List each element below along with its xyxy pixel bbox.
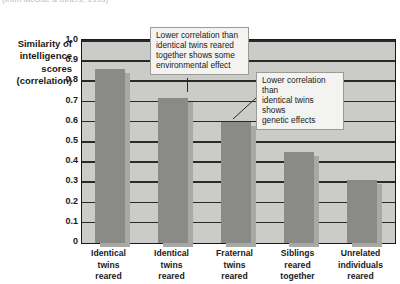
x-axis-label-4: Siblingsrearedtogether [263,248,333,283]
x-axis-label-line: individuals [326,260,396,272]
bar-1 [95,69,125,243]
environmental-leader-line [187,78,188,92]
source-credit: (from McGue & others, 1993) [2,0,108,4]
annotation-line: Lower correlation than [262,76,339,96]
x-axis-label-line: reared [74,271,144,283]
bar-4 [284,152,314,243]
x-axis-label-line: reared [200,271,270,283]
x-axis-label-3: Fraternaltwinsreared [200,248,270,283]
y-tick-label: 0 [58,236,78,246]
annotation-genetic-effects: Lower correlation than identical twins s… [256,72,344,130]
bar-body [284,152,314,243]
bar-body [221,122,251,243]
y-tick-label: 0.3 [58,175,78,185]
y-tick-label: 0.1 [58,216,78,226]
annotation-environmental-effect: Lower correlation than identical twins r… [150,27,249,75]
y-tick-label: 0.8 [58,74,78,84]
x-axis-labels: IdenticaltwinsrearedIdenticaltwinsreared… [81,248,396,284]
x-axis-label-line: Identical [137,248,207,260]
x-axis-label-line: Siblings [263,248,333,260]
y-tick-label: 0.7 [58,95,78,105]
x-axis-label-2: Identicaltwinsreared [137,248,207,283]
annotation-line: genetic effects [262,116,339,126]
annotation-line: identical twins shows [262,96,339,116]
x-axis-label-line: reared [137,271,207,283]
x-axis-label-5: Unrelatedindividualsreared [326,248,396,283]
bar-3 [221,122,251,243]
x-axis-label-line: Fraternal [200,248,270,260]
x-axis-label-line: reared [326,271,396,283]
y-tick-label: 0.4 [58,155,78,165]
y-tick-label: 0.9 [58,54,78,64]
bar-5 [347,180,377,243]
bar-2 [158,98,188,243]
bar-body [347,180,377,243]
y-tick-label: 0.2 [58,196,78,206]
y-tick-label: 0.5 [58,135,78,145]
bar-body [95,69,125,243]
x-axis-label-line: Identical [74,248,144,260]
y-axis-tick-labels: 1.00.90.80.70.60.50.40.30.20.10 [58,34,78,246]
y-tick-label: 0.6 [58,115,78,125]
x-axis-label-line: twins [137,260,207,272]
x-axis-label-line: twins [74,260,144,272]
annotation-line: environmental effect [156,61,244,71]
y-tick-label: 1.0 [58,34,78,44]
x-axis-label-1: Identicaltwinsreared [74,248,144,283]
x-axis-label-line: reared [263,260,333,272]
x-axis-label-line: together [263,271,333,283]
x-axis-label-line: Unrelated [326,248,396,260]
bar-body [158,98,188,243]
x-axis-label-line: twins [200,260,270,272]
